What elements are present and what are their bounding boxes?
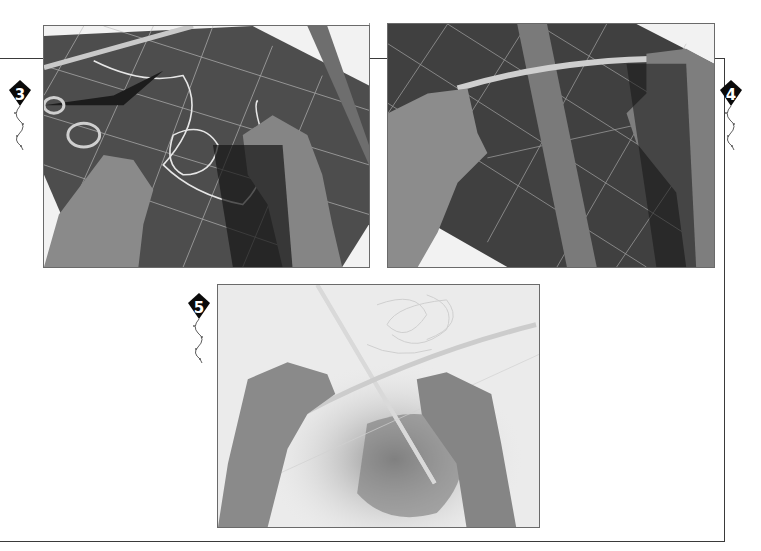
step-5-marker: 5: [188, 293, 218, 373]
step-5-photo: [217, 284, 540, 528]
frame-line-connector-3-4: [370, 58, 387, 59]
step-4-photo: [387, 23, 715, 268]
step-3-number: 3: [9, 86, 31, 104]
step-3-marker: 3: [9, 80, 39, 160]
step-3-photo: [43, 25, 370, 268]
step-4-number: 4: [720, 86, 742, 104]
step-5-number: 5: [188, 299, 210, 317]
frame-line-left-top: [0, 58, 43, 59]
frame-line-bottom: [0, 541, 725, 542]
step-4-marker: 4: [720, 80, 750, 160]
